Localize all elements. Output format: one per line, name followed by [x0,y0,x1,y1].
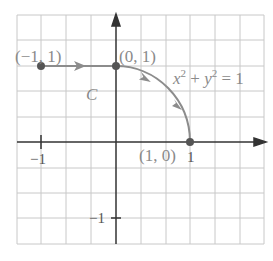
point-1-0 [186,138,194,146]
x-tick-label-neg1: −1 [30,152,46,167]
y-exp: 2 [212,67,218,79]
point-label-1-0: (1, 0) [139,147,176,164]
coordinate-plane [0,0,273,261]
equation-label: x2 + y2 = 1 [173,68,244,87]
x-tick-label-1: 1 [187,150,195,165]
y-tick-label-neg1: −1 [89,211,105,226]
point-label-0-1: (0, 1) [119,48,156,65]
y-axis-arrow-icon [112,14,120,26]
curve-label: C [86,86,97,103]
point-label-neg1-1: (−1, 1) [15,48,61,65]
arrow-arc1-icon [138,72,153,84]
